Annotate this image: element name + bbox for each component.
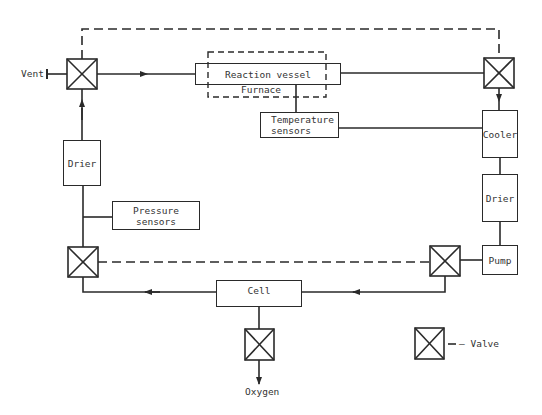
pressure-sensors-box: Pressure sensors xyxy=(112,201,200,230)
pressure-sensors-label-2: sensors xyxy=(133,216,179,227)
drier-right-label: Drier xyxy=(486,193,515,204)
legend-valve-icon xyxy=(415,328,444,359)
cooler-box: Cooler xyxy=(482,110,518,158)
drier-right-box: Drier xyxy=(482,174,518,222)
cooler-label: Cooler xyxy=(483,129,517,140)
valve-vent-icon[interactable] xyxy=(67,59,97,89)
pump-label: Pump xyxy=(489,255,512,266)
reaction-vessel-label: Reaction vessel xyxy=(225,69,311,80)
cell-box: Cell xyxy=(216,280,302,307)
valve-top-right-icon[interactable] xyxy=(484,58,514,88)
furnace-label: Furnace xyxy=(241,84,281,95)
reaction-vessel-box: Reaction vessel xyxy=(195,63,341,85)
legend-valve-label: — Valve xyxy=(459,338,499,349)
temperature-sensors-label-1: Temperature xyxy=(271,114,334,125)
temperature-sensors-box: Temperature sensors xyxy=(260,112,339,138)
drier-left-box: Drier xyxy=(63,140,101,186)
valve-bottom-right-icon[interactable] xyxy=(430,246,460,276)
vent-label: Vent xyxy=(21,68,44,79)
cell-label: Cell xyxy=(248,285,271,296)
valve-bottom-left-icon[interactable] xyxy=(68,247,98,277)
drier-left-label: Drier xyxy=(68,158,97,169)
valve-oxygen-icon[interactable] xyxy=(245,329,274,360)
temperature-sensors-label-2: sensors xyxy=(271,125,334,136)
pressure-sensors-label-1: Pressure xyxy=(133,205,179,216)
oxygen-label: Oxygen xyxy=(245,386,279,397)
pump-box: Pump xyxy=(482,245,518,275)
